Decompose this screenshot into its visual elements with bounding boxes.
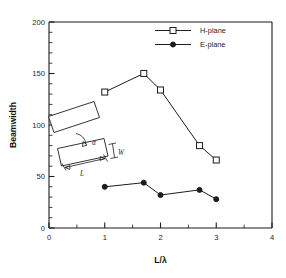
y-tick-label-200: 200 [32, 18, 45, 27]
x-axis-tick-labels: 0 1 2 3 4 [47, 233, 274, 242]
e-plane-marker [214, 197, 219, 202]
x-tick-label-1: 1 [103, 233, 107, 242]
legend-e-plane-marker [171, 42, 176, 47]
y-tick-label-150: 150 [32, 69, 45, 78]
h-plane-marker [102, 89, 108, 95]
y-axis-tick-labels: 0 50 100 150 200 [32, 18, 45, 233]
antenna-geometry-inset: α W L [49, 102, 126, 179]
inset-upper-patch [49, 102, 100, 133]
series-e-plane [102, 180, 219, 201]
h-plane-marker [197, 143, 203, 149]
inset-l-arrowhead-left [65, 166, 70, 170]
y-tick-label-0: 0 [41, 224, 45, 233]
x-axis-title: L/λ [154, 255, 167, 265]
inset-length-label: L [79, 170, 84, 178]
h-plane-marker [158, 87, 164, 93]
h-plane-marker [141, 70, 147, 76]
chart-legend: H-plane E-plane [155, 26, 226, 49]
inset-angle-label: α [92, 139, 96, 147]
h-plane-marker [213, 157, 219, 163]
inset-w-bracket-stem [113, 144, 115, 158]
e-plane-marker [141, 180, 146, 185]
inset-width-label: W [118, 149, 125, 157]
chart-canvas: 0 50 100 150 200 0 1 2 3 4 L/λ B [0, 0, 286, 278]
beamwidth-chart-figure: 0 50 100 150 200 0 1 2 3 4 L/λ B [0, 0, 286, 278]
legend-h-plane-marker [170, 28, 176, 34]
y-tick-label-50: 50 [37, 172, 45, 181]
x-axis-ticks [49, 223, 272, 229]
legend-label-h-plane: H-plane [200, 26, 226, 35]
legend-label-e-plane: E-plane [200, 40, 225, 49]
x-tick-label-3: 3 [214, 233, 218, 242]
e-plane-marker [197, 187, 202, 192]
x-tick-label-0: 0 [47, 233, 51, 242]
x-tick-label-2: 2 [158, 233, 162, 242]
y-tick-label-100: 100 [32, 121, 45, 130]
x-tick-label-4: 4 [270, 233, 274, 242]
e-plane-marker [158, 193, 163, 198]
e-plane-marker [102, 184, 107, 189]
y-axis-title: Beamwidth [8, 102, 18, 148]
